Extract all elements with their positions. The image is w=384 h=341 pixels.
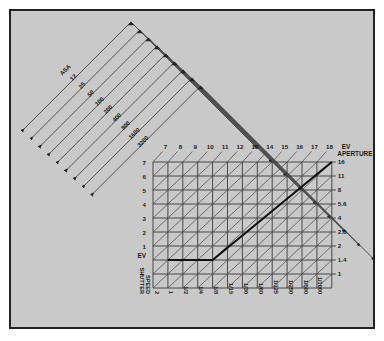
grid-cell-diagonal [183, 232, 198, 246]
asa-line [49, 46, 300, 189]
grid-cell-diagonal [153, 232, 168, 246]
grid-cell-diagonal [198, 260, 213, 274]
aperture-tick-label: 11 [338, 172, 345, 179]
grid-cell-diagonal [228, 162, 243, 176]
grid-cell-diagonal [153, 274, 168, 288]
ev-top-tick-label: 7 [164, 143, 168, 150]
grid-cell-diagonal [272, 260, 287, 274]
grid-cell-diagonal [242, 260, 257, 274]
grid-cell-diagonal [228, 176, 243, 190]
ev-top-tick [317, 152, 327, 163]
ev-left-tick-label: 5 [143, 187, 147, 194]
shutter-tick-label: 1/30 [243, 283, 249, 294]
asa-apex-arrow [128, 21, 134, 25]
grid-cell-diagonal [257, 260, 272, 274]
grid-cell-diagonal [272, 176, 287, 190]
asa-apex-arrow [137, 29, 143, 33]
ev-top-tick [168, 152, 178, 163]
exposure-grid [153, 152, 336, 289]
grid-cell-diagonal [153, 218, 168, 232]
nomogram-page: 789101112131415161718EVAPERTURE161185.64… [0, 0, 384, 341]
grid-cell-diagonal [242, 162, 257, 176]
grid-cell-diagonal [302, 232, 317, 246]
grid-cell-diagonal [302, 204, 317, 218]
grid-cell-diagonal [183, 190, 198, 204]
asa-tick-label: 50 [86, 88, 95, 97]
grid-cell-diagonal [242, 176, 257, 190]
shutter-tick-label: 2 [154, 291, 160, 294]
grid-cell-diagonal [198, 190, 213, 204]
shutter-tick-label: 1/250 [288, 280, 294, 294]
grid-cell-diagonal [168, 246, 183, 260]
ev-top-tick-label: 11 [222, 143, 229, 150]
asa-tick-label: 200 [102, 103, 114, 115]
ev-left-tick-label: 3 [143, 215, 147, 222]
asa-tick-label: 100 [94, 95, 106, 107]
grid-cell-diagonal [228, 190, 243, 204]
grid-cell-diagonal [153, 162, 168, 176]
grid-cell-diagonal [183, 246, 198, 260]
grid-cell-diagonal [198, 204, 213, 218]
ev-top-tick [213, 152, 223, 163]
ev-top-tick-label: 9 [194, 143, 198, 150]
grid-cell-diagonal [257, 232, 272, 246]
shutter-axis-label-1: SHUTTER [139, 268, 145, 294]
grid-cell-diagonal [287, 232, 302, 246]
asa-tick-label: 800 [120, 119, 132, 131]
grid-cell-diagonal [168, 274, 183, 288]
grid-cell-diagonal [257, 176, 272, 190]
shutter-tick-label: 1/8 [213, 286, 219, 294]
ev-left-tick-label: 1 [143, 243, 147, 250]
ev-top-tick-label: 15 [281, 143, 288, 150]
grid-cell-diagonal [198, 246, 213, 260]
grid-cell-diagonal [257, 162, 272, 176]
grid-cell-diagonal [153, 190, 168, 204]
grid-cell-diagonal [317, 218, 332, 232]
grid-cell-diagonal [168, 232, 183, 246]
grid-cell-diagonal [168, 190, 183, 204]
grid-cell-diagonal [168, 162, 183, 176]
grid-cell-diagonal [287, 260, 302, 274]
grid-cell-diagonal [242, 204, 257, 218]
grid-cell-diagonal [168, 218, 183, 232]
ev-left-tick-label: 2 [143, 229, 147, 236]
grid-cell-diagonal [153, 204, 168, 218]
ev-top-tick [198, 152, 208, 163]
grid-cell-diagonal [317, 246, 332, 260]
shutter-tick-label: 1 [168, 291, 174, 294]
grid-cell-diagonal [168, 260, 183, 274]
grid-cell-diagonal [317, 176, 332, 190]
ev-top-tick [257, 152, 267, 163]
asa-tick-label: 400 [111, 111, 123, 123]
grid-cell-diagonal [302, 218, 317, 232]
ev-top-tick [272, 152, 282, 163]
grid-cell-diagonal [317, 232, 332, 246]
grid-cell-diagonal [272, 246, 287, 260]
grid-cell-diagonal [213, 218, 228, 232]
aperture-tick-label: 1 [338, 270, 342, 277]
grid-cell-diagonal [198, 162, 213, 176]
ev-top-tick [242, 152, 252, 163]
grid-cell-diagonal [228, 218, 243, 232]
shutter-tick-label: 1/1000 [317, 277, 323, 294]
ev-top-tick [228, 152, 238, 163]
ev-top-tick-label: 13 [251, 143, 258, 150]
grid-cell-diagonal [257, 246, 272, 260]
ev-top-tick-label: 18 [326, 143, 333, 150]
aperture-tick-label: 1.4 [338, 256, 347, 263]
ev-left-tick-label: 7 [143, 159, 147, 166]
asa-fan-group [23, 21, 374, 259]
grid-cell-diagonal [183, 260, 198, 274]
nomogram-diagram: 789101112131415161718EVAPERTURE161185.64… [0, 0, 384, 341]
ev-left-tick-label: 6 [143, 173, 147, 180]
grid-cell-diagonal [317, 260, 332, 274]
grid-cell-diagonal [183, 218, 198, 232]
shutter-tick-label: 1/4 [198, 286, 204, 295]
asa-line [32, 30, 271, 161]
grid-cell-diagonal [198, 232, 213, 246]
grid-cell-diagonal [317, 190, 332, 204]
ev-top-tick-label: 14 [266, 143, 273, 150]
aperture-tick-label: 2 [338, 242, 342, 249]
ev-top-tick-label: 17 [311, 143, 318, 150]
ev-top-tick-label: 16 [296, 143, 303, 150]
